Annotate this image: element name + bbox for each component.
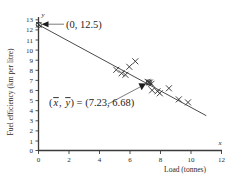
y-tick-label: 8 bbox=[30, 67, 34, 75]
x-tick-label: 12 bbox=[218, 156, 226, 164]
x-tick-label: 4 bbox=[98, 156, 102, 164]
y-tick-label: 13 bbox=[26, 16, 34, 24]
y-tick-label: 5 bbox=[30, 97, 34, 105]
x-tick-label: 6 bbox=[128, 156, 132, 164]
y-tick-label: 12 bbox=[26, 26, 34, 34]
scatter-chart: 13 12 11 10 9 8 7 6 5 4 3 2 1 0 0 bbox=[0, 0, 235, 179]
centroid-values: ) = (7.23, 6.68) bbox=[71, 97, 135, 109]
y-tick-label: 1 bbox=[30, 138, 34, 146]
y-tick-label: 0 bbox=[30, 147, 34, 155]
y-tick-label: 10 bbox=[26, 47, 34, 55]
y-axis-title: Fuel efficiency (km per litre) bbox=[6, 48, 15, 135]
x-tick-label: 8 bbox=[159, 156, 163, 164]
y-tick-label: 2 bbox=[30, 127, 34, 135]
x-tick-label: 0 bbox=[37, 156, 41, 164]
centroid-xbar-symbol: x bbox=[53, 97, 59, 108]
intercept-annotation-label: (0, 12.5) bbox=[66, 19, 102, 31]
centroid-comma: , bbox=[59, 97, 62, 108]
y-tick-label: 4 bbox=[30, 107, 34, 115]
y-tick-label: 6 bbox=[30, 87, 34, 95]
y-tick-label: 3 bbox=[30, 117, 34, 125]
x-tick-label: 2 bbox=[67, 156, 71, 164]
chart-background bbox=[0, 0, 235, 179]
x-axis-title: Load (tonnes) bbox=[164, 165, 206, 174]
y-tick-label: 11 bbox=[26, 37, 33, 45]
y-tick-label: 7 bbox=[30, 77, 34, 85]
x-tick-label: 10 bbox=[188, 156, 196, 164]
centroid-paren-open: ( bbox=[49, 97, 53, 109]
y-tick-label: 9 bbox=[30, 57, 34, 65]
